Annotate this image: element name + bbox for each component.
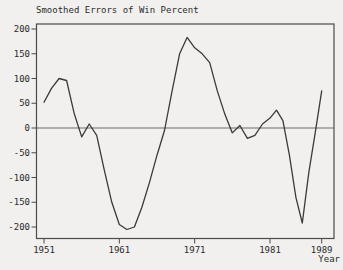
plot-frame <box>37 24 335 239</box>
y-tick-label: 100 <box>14 74 30 84</box>
y-tick-label: 50 <box>19 98 30 108</box>
y-tick-label: 150 <box>14 49 30 59</box>
x-tick-label: 1971 <box>184 245 206 255</box>
y-tick-label: -200 <box>8 222 30 232</box>
x-axis-ticks: 19511961197119811989 <box>33 239 332 256</box>
x-tick-label: 1981 <box>259 245 281 255</box>
y-tick-label: -150 <box>8 197 30 207</box>
data-series-line <box>44 37 322 229</box>
x-axis-label: Year <box>318 254 340 264</box>
chart-container: Smoothed Errors of Win Percent 200150100… <box>0 0 343 270</box>
y-axis-ticks: 200150100500-50-100-150-200 <box>8 24 36 232</box>
x-tick-label: 1951 <box>33 245 55 255</box>
chart-title: Smoothed Errors of Win Percent <box>36 5 199 15</box>
y-tick-label: 0 <box>25 123 30 133</box>
y-tick-label: -100 <box>8 173 30 183</box>
y-tick-label: -50 <box>14 148 30 158</box>
y-tick-label: 200 <box>14 24 30 34</box>
line-chart: Smoothed Errors of Win Percent 200150100… <box>0 0 343 270</box>
x-tick-label: 1961 <box>108 245 130 255</box>
